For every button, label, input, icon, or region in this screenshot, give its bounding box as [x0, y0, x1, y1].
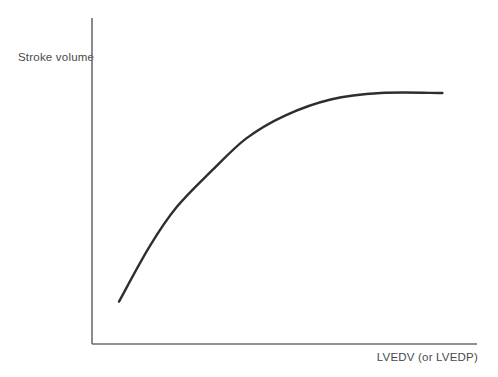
x-axis-label: LVEDV (or LVEDP) [377, 351, 478, 363]
plot-area [0, 0, 498, 377]
stroke-volume-curve [119, 93, 442, 302]
frank-starling-figure: Stroke volume LVEDV (or LVEDP) [0, 0, 498, 377]
